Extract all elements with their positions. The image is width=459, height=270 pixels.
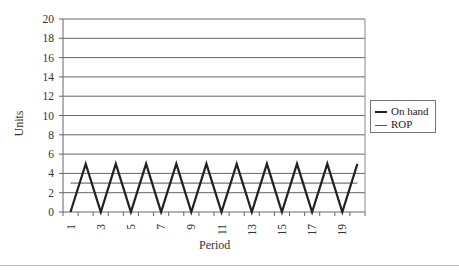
legend-swatch-rop (375, 125, 387, 126)
y-axis-ticks: 02468101214161820 (43, 13, 55, 218)
legend-item-rop: ROP (375, 118, 412, 130)
svg-text:2: 2 (48, 187, 54, 199)
svg-text:6: 6 (48, 148, 54, 160)
svg-text:7: 7 (155, 224, 167, 230)
x-axis-title: Period (199, 238, 230, 253)
svg-text:9: 9 (185, 224, 197, 230)
svg-text:12: 12 (43, 90, 55, 102)
legend-swatch-on-hand (375, 111, 387, 113)
legend-item-on-hand: On hand (375, 105, 429, 117)
svg-text:8: 8 (48, 129, 54, 141)
series-lines (71, 164, 358, 212)
svg-text:4: 4 (48, 167, 54, 179)
svg-text:16: 16 (43, 52, 55, 64)
page-divider (0, 265, 459, 266)
svg-text:1: 1 (65, 224, 77, 230)
svg-text:17: 17 (306, 224, 318, 236)
chart-legend: On hand ROP (370, 100, 436, 133)
series-on-hand (71, 164, 358, 212)
y-axis-title: Units (12, 110, 27, 136)
svg-text:15: 15 (276, 224, 288, 236)
x-axis-ticks: 135791113151719 (63, 212, 365, 236)
svg-text:19: 19 (336, 224, 348, 236)
svg-text:18: 18 (43, 32, 55, 44)
svg-text:5: 5 (125, 224, 137, 230)
svg-text:10: 10 (43, 110, 55, 122)
svg-text:13: 13 (246, 224, 258, 236)
svg-text:20: 20 (43, 13, 55, 25)
svg-text:11: 11 (216, 224, 228, 235)
svg-text:14: 14 (43, 71, 55, 83)
svg-text:0: 0 (48, 206, 54, 218)
line-chart: 02468101214161820 135791113151719 (0, 0, 459, 270)
svg-text:3: 3 (95, 224, 107, 230)
